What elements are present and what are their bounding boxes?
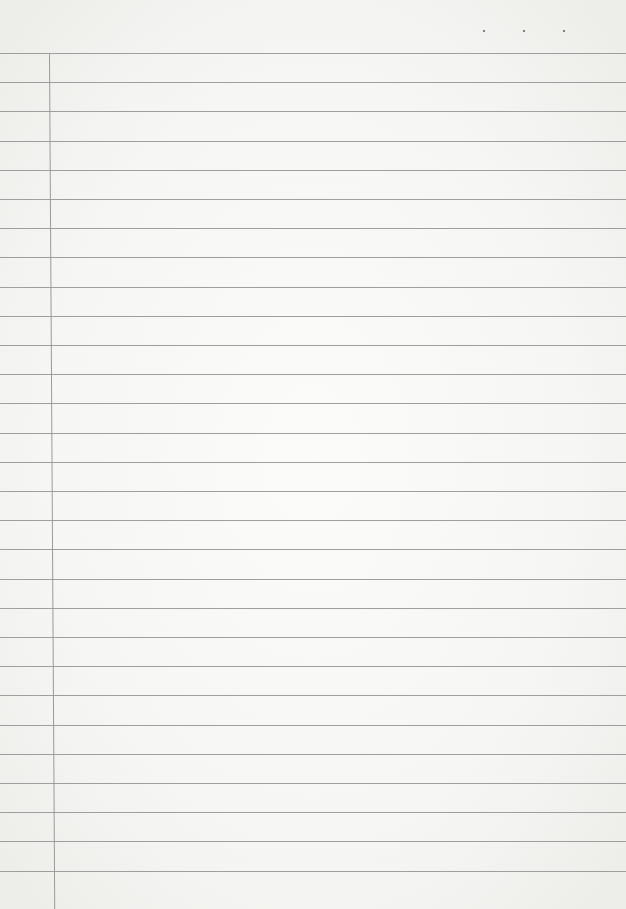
ruled-line — [0, 316, 626, 317]
ruled-line — [0, 403, 626, 404]
ruled-line — [0, 82, 626, 83]
dot-mark — [563, 30, 565, 32]
margin-line — [49, 53, 55, 909]
ruled-line — [0, 608, 626, 609]
ruled-line — [0, 374, 626, 375]
ruled-line — [0, 462, 626, 463]
ruled-line — [0, 666, 626, 667]
ruled-line — [0, 549, 626, 550]
ruled-line — [0, 871, 626, 872]
ruled-line — [0, 257, 626, 258]
ruled-line — [0, 199, 626, 200]
ruled-line — [0, 637, 626, 638]
ruled-line — [0, 228, 626, 229]
ruled-line — [0, 170, 626, 171]
ruled-line — [0, 812, 626, 813]
ruled-line — [0, 141, 626, 142]
ruled-line — [0, 520, 626, 521]
ruled-line — [0, 491, 626, 492]
ruled-line — [0, 725, 626, 726]
ruled-line — [0, 579, 626, 580]
dot-mark — [523, 30, 525, 32]
ruled-line — [0, 287, 626, 288]
ruled-line — [0, 754, 626, 755]
dot-mark — [483, 30, 485, 32]
ruled-line — [0, 695, 626, 696]
ruled-line — [0, 841, 626, 842]
ruled-line — [0, 111, 626, 112]
ruled-line — [0, 345, 626, 346]
ruled-line — [0, 53, 626, 54]
notebook-page — [0, 0, 626, 909]
ruled-line — [0, 433, 626, 434]
ruled-line — [0, 783, 626, 784]
